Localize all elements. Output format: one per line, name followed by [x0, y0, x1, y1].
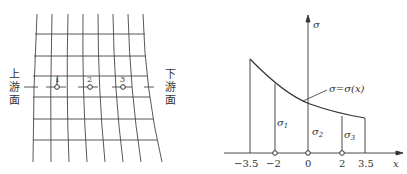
- x-tick-3.5: 3.5: [358, 158, 374, 169]
- downstream-char-2: 游: [165, 81, 176, 94]
- downstream-char-1: 下: [165, 68, 176, 81]
- upstream-char-3: 面: [9, 94, 20, 107]
- point-label-2: 2: [87, 75, 92, 84]
- downstream-char-3: 面: [165, 94, 176, 107]
- x-tick-2: 2: [339, 158, 345, 169]
- x-tick-neg3.5: −3.5: [234, 158, 258, 169]
- upstream-char-1: 上: [9, 68, 20, 81]
- curve-label: σ=σ(x): [329, 83, 365, 94]
- x-axis-label: x: [393, 158, 399, 169]
- x-tick-neg2: −2: [266, 158, 281, 169]
- upstream-char-2: 游: [9, 81, 20, 94]
- y-axis-label: σ: [313, 19, 321, 30]
- mesh-grid: [33, 14, 162, 162]
- x-tick-0: 0: [305, 158, 311, 169]
- sigma2-label: σ2: [312, 126, 324, 139]
- diagram-canvas: 1 2 3 上 游 面 下 游 面 σ=σ(x) σ x σ1 σ2 σ3: [0, 0, 407, 174]
- point-label-1: 1: [55, 75, 60, 84]
- curve-leader-line: [303, 90, 327, 101]
- sigma1-label: σ1: [277, 117, 288, 130]
- sigma3-label: σ3: [344, 129, 356, 142]
- point-label-3: 3: [120, 75, 125, 84]
